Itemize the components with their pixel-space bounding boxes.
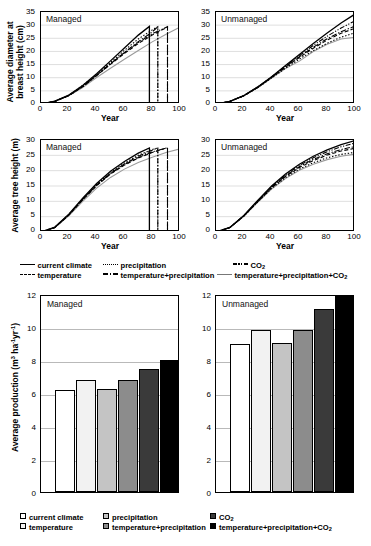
swatch-co2 — [210, 513, 216, 519]
xtick-dbhu-100: 100 — [345, 105, 363, 113]
bar-managed-temperature — [76, 380, 96, 492]
plot-dbh-unmanaged — [215, 11, 354, 103]
swatch-precipitation — [103, 513, 109, 519]
line-sample-dashdotdot — [233, 263, 248, 265]
legend-bar-co2: CO2 — [210, 512, 234, 522]
panel-title-dbh-managed: Managed — [46, 14, 81, 24]
xtick-dbhm-20: 20 — [60, 105, 74, 113]
bar-unmanaged-temperature — [251, 330, 271, 493]
gridline-10 — [41, 329, 178, 330]
xtick-dbhu-80: 80 — [319, 105, 333, 113]
ytick-pu-12: 12 — [197, 292, 211, 300]
bar-managed-all — [160, 360, 179, 492]
height-yaxis-title: Average tree height (m) — [11, 133, 21, 238]
figure-root: Average diameter at breast height (cm) 3… — [0, 0, 371, 546]
xtick-hm-0: 0 — [33, 233, 47, 241]
ytick-dbh-20: 20 — [21, 47, 35, 55]
ytick-dbh-30: 30 — [21, 21, 35, 29]
bar-managed-precipitation — [97, 389, 117, 492]
xtick-dbhu-20: 20 — [235, 105, 249, 113]
legend-bar-current-climate: current climate — [20, 512, 83, 522]
ytick-hm-15: 15 — [21, 181, 35, 189]
co2-subscript-bar-all: 2 — [329, 526, 332, 532]
plot-height-unmanaged — [215, 139, 354, 231]
legend-line-current-climate: current climate — [20, 260, 92, 270]
ytick-dbhu-25: 25 — [196, 34, 210, 42]
ytick-pu-10: 10 — [197, 325, 211, 333]
ytick-pm-10: 10 — [22, 325, 36, 333]
legend-line-precipitation: precipitation — [103, 260, 166, 270]
panel-title-height-managed: Managed — [46, 142, 81, 152]
xtick-hm-100: 100 — [170, 233, 188, 241]
ytick-pm-6: 6 — [22, 391, 36, 399]
ytick-hm-5: 5 — [21, 211, 35, 219]
swatch-current-climate — [20, 513, 26, 519]
ytick-hm-10: 10 — [21, 196, 35, 204]
legend-line-temp-precip: temperature+precipitation — [103, 270, 214, 280]
gridline-8 — [41, 362, 178, 363]
ytick-pu-8: 8 — [197, 358, 211, 366]
bar-unmanaged-current-climate — [230, 344, 250, 493]
ytick-pm-12: 12 — [22, 292, 36, 300]
ytick-pm-4: 4 — [22, 424, 36, 432]
xtick-hm-80: 80 — [144, 233, 158, 241]
legend-bar-all: temperature+precipitation+CO2 — [210, 522, 332, 532]
xaxis-title-dbh-unmanaged: Year — [250, 113, 320, 123]
ytick-pm-8: 8 — [22, 358, 36, 366]
co2-subscript-all: 2 — [344, 274, 347, 280]
xtick-dbhu-60: 60 — [291, 105, 305, 113]
ytick-hu-15: 15 — [196, 181, 210, 189]
plot-height-managed — [40, 139, 179, 231]
ytick-dbh-5: 5 — [21, 86, 35, 94]
ytick-hu-10: 10 — [196, 196, 210, 204]
panel-title-production-unmanaged: Unmanaged — [222, 299, 268, 309]
ytick-dbh-25: 25 — [21, 34, 35, 42]
xtick-hu-100: 100 — [345, 233, 363, 241]
ytick-pu-6: 6 — [197, 391, 211, 399]
xtick-hu-60: 60 — [291, 233, 305, 241]
line-legend: current climate temperature precipitatio… — [0, 258, 371, 282]
bar-legend: current climate temperature precipitatio… — [0, 510, 371, 534]
bar-unmanaged-all — [335, 295, 354, 492]
ytick-dbhu-15: 15 — [196, 60, 210, 68]
xtick-dbhu-40: 40 — [263, 105, 277, 113]
unit-ha: -1 — [10, 339, 16, 344]
bar-unmanaged-precipitation — [272, 343, 292, 492]
xtick-hm-60: 60 — [116, 233, 130, 241]
ytick-hu-30: 30 — [196, 136, 210, 144]
xaxis-title-height-unmanaged: Year — [250, 241, 320, 251]
bar-unmanaged-temp-precip — [293, 330, 313, 493]
ytick-pm-0: 0 — [22, 490, 36, 498]
line-sample-dotted — [103, 264, 118, 265]
ytick-dbh-35: 35 — [21, 8, 35, 16]
ytick-dbh-15: 15 — [21, 60, 35, 68]
xtick-dbhm-100: 100 — [170, 105, 188, 113]
xaxis-title-dbh-managed: Year — [75, 113, 145, 123]
legend-line-all: temperature+precipitation+CO2 — [217, 270, 347, 280]
panel-title-height-unmanaged: Unmanaged — [221, 142, 267, 152]
ytick-dbhu-20: 20 — [196, 47, 210, 55]
ytick-hm-20: 20 — [21, 166, 35, 174]
line-sample-dashed — [20, 274, 35, 275]
ytick-pu-0: 0 — [197, 490, 211, 498]
ytick-dbhu-10: 10 — [196, 73, 210, 81]
ytick-pm-2: 2 — [22, 457, 36, 465]
ytick-hm-30: 30 — [21, 136, 35, 144]
plot-dbh-managed — [40, 11, 179, 103]
bar-managed-current-climate — [55, 390, 75, 492]
xtick-hu-0: 0 — [208, 233, 222, 241]
ytick-pu-4: 4 — [197, 424, 211, 432]
bar-unmanaged-co2 — [314, 309, 334, 492]
xtick-hu-80: 80 — [319, 233, 333, 241]
legend-line-temperature: temperature — [20, 270, 81, 280]
xaxis-title-height-managed: Year — [75, 241, 145, 251]
swatch-temperature — [20, 523, 26, 529]
ytick-hm-25: 25 — [21, 151, 35, 159]
swatch-temp-precip — [103, 523, 109, 529]
swatch-all — [210, 523, 216, 529]
line-sample-dashdot — [103, 273, 118, 275]
panel-title-production-managed: Managed — [47, 299, 82, 309]
co2-subscript: 2 — [262, 264, 265, 270]
xtick-dbhm-40: 40 — [88, 105, 102, 113]
ytick-dbhu-35: 35 — [196, 8, 210, 16]
